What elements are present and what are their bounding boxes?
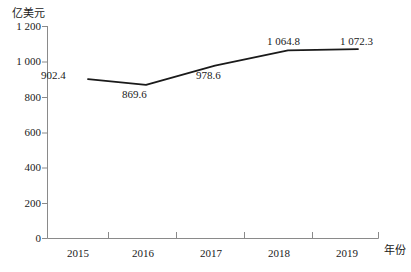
- data-label-2018: 1 064.8: [267, 36, 300, 47]
- x-tick-marks: [109, 232, 313, 239]
- x-tick-label-2017: 2017: [181, 248, 241, 259]
- y-tick-label-400: 400: [1, 162, 41, 173]
- x-tick-label-2018: 2018: [249, 248, 309, 259]
- data-label-2017: 978.6: [196, 70, 221, 81]
- data-series-line: [88, 49, 358, 85]
- y-tick-label-800: 800: [1, 92, 41, 103]
- y-tick-label-1000: 1 000: [1, 56, 41, 67]
- y-axis-unit-label: 亿美元: [12, 8, 46, 20]
- y-tick-marks: [42, 27, 48, 239]
- y-tick-label-600: 600: [1, 127, 41, 138]
- y-tick-label-0: 0: [1, 233, 41, 244]
- x-tick-label-2015: 2015: [48, 248, 108, 259]
- x-tick-label-2019: 2019: [317, 248, 377, 259]
- data-label-2016: 869.6: [122, 89, 147, 100]
- data-label-2019: 1 072.3: [340, 36, 373, 47]
- line-chart: 亿美元 年份 1 200 1 000 800 600 400 200 0 201…: [0, 0, 411, 272]
- x-axis-title: 年份: [384, 245, 406, 257]
- y-tick-label-200: 200: [1, 198, 41, 209]
- y-tick-label-1200: 1 200: [1, 21, 41, 32]
- data-label-2015: 902.4: [41, 70, 66, 81]
- x-tick-label-2016: 2016: [113, 248, 173, 259]
